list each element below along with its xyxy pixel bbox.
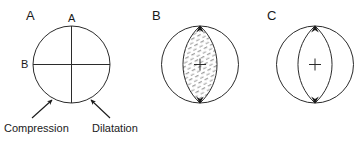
panel-a-axis-label-top: A xyxy=(68,12,76,24)
compression-arrow xyxy=(32,100,52,118)
compression-label: Compression xyxy=(4,122,69,134)
panel-b-letter: B xyxy=(152,8,161,23)
panel-c: C xyxy=(267,8,354,109)
panel-a-letter: A xyxy=(26,8,35,23)
figure-canvas: A A B Compression Dilatation B xyxy=(0,0,358,144)
dilatation-arrow xyxy=(91,100,110,118)
focal-mechanism-figure: A A B Compression Dilatation B xyxy=(0,0,358,144)
panel-a-axis-label-left: B xyxy=(21,58,28,70)
panel-c-letter: C xyxy=(267,8,276,23)
panel-b: B xyxy=(152,8,239,104)
panel-a: A A B Compression Dilatation xyxy=(4,8,138,134)
dilatation-label: Dilatation xyxy=(92,122,138,134)
